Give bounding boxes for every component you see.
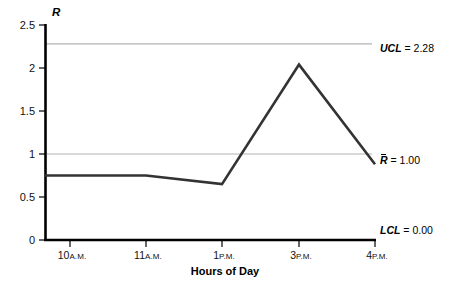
rbar-value: 1.00	[400, 154, 420, 166]
x-tick-label-11am: 11A.M.	[134, 250, 162, 261]
y-axis-title: R	[52, 7, 60, 19]
x-tick-label-10am: 10A.M.	[58, 250, 87, 261]
lcl-value: 0.00	[412, 224, 432, 236]
x-tick-meridiem: P.M.	[219, 252, 235, 261]
x-tick-label-4pm: 4P.M.	[366, 250, 388, 261]
ucl-equals: =	[402, 42, 414, 54]
rbar-name: R	[380, 154, 388, 166]
x-tick-meridiem: A.M.	[69, 252, 86, 261]
y-tick-label-2: 2	[7, 63, 35, 74]
rbar-equals: =	[388, 154, 400, 166]
lcl-annotation: LCL = 0.00	[380, 225, 433, 236]
gridlines	[45, 44, 372, 154]
y-tick-label-2-5: 2.5	[7, 20, 35, 31]
ucl-annotation: UCL = 2.28	[380, 43, 434, 54]
x-tick-label-3pm: 3P.M.	[290, 250, 312, 261]
ucl-name: UCL	[380, 42, 402, 54]
x-tick-hour: 10	[58, 249, 70, 261]
x-tick-meridiem: P.M.	[296, 252, 312, 261]
y-tick-label-1: 1	[7, 149, 35, 160]
y-tick-label-0: 0	[7, 235, 35, 246]
x-tick-hour: 11	[134, 249, 145, 261]
x-tick-label-1pm: 1P.M.	[213, 250, 235, 261]
ucl-value: 2.28	[414, 42, 434, 54]
y-tick-label-0-5: 0.5	[7, 192, 35, 203]
lcl-equals: =	[400, 224, 412, 236]
y-tick-label-1-5: 1.5	[7, 106, 35, 117]
x-tick-meridiem: P.M.	[372, 252, 388, 261]
x-axis-title: Hours of Day	[191, 266, 259, 277]
data-series-line	[45, 65, 375, 185]
x-tick-meridiem: A.M.	[145, 252, 162, 261]
y-axis-ticks	[39, 25, 45, 240]
control-chart: 2.5 2 1.5 1 0.5 0 R 10A.M. 11A.M. 1P.M. …	[0, 0, 455, 284]
rbar-annotation: R = 1.00	[380, 154, 420, 166]
lcl-name: LCL	[380, 224, 400, 236]
